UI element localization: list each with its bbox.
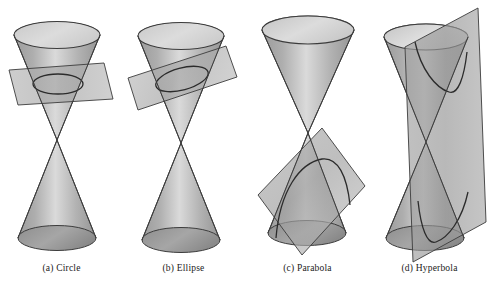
panel-circle: (a) Circle bbox=[0, 0, 123, 295]
caption-hyperbola: (d) Hyperbola bbox=[368, 263, 491, 273]
cutting-plane bbox=[405, 8, 486, 262]
circle-diagram bbox=[0, 0, 123, 263]
caption-ellipse: (b) Ellipse bbox=[122, 263, 245, 273]
caption-parabola: (c) Parabola bbox=[246, 263, 369, 273]
cutting-plane bbox=[9, 63, 113, 105]
upper-cap-ellipse bbox=[262, 16, 354, 44]
lower-base-ellipse bbox=[142, 228, 220, 253]
upper-cap-ellipse bbox=[14, 22, 100, 49]
caption-circle: (a) Circle bbox=[0, 263, 123, 273]
parabola-diagram bbox=[246, 0, 369, 263]
panel-ellipse: (b) Ellipse bbox=[122, 0, 245, 295]
panel-hyperbola: (d) Hyperbola bbox=[368, 0, 491, 295]
lower-base-ellipse bbox=[18, 226, 96, 251]
hyperbola-diagram bbox=[368, 0, 491, 263]
ellipse-diagram bbox=[122, 0, 245, 263]
panel-parabola: (c) Parabola bbox=[246, 0, 369, 295]
upper-cap-ellipse bbox=[138, 23, 224, 50]
conic-sections-figure: (a) Circle bbox=[0, 0, 491, 295]
